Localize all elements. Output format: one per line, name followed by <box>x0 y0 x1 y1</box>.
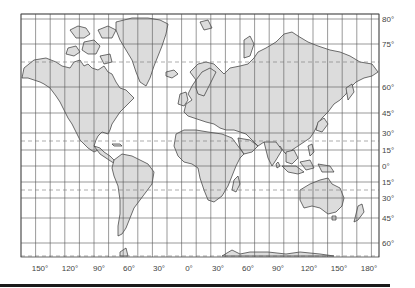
iceland <box>166 70 178 78</box>
lat-label: 60° <box>382 83 394 92</box>
lon-label: 90° <box>272 264 284 273</box>
lon-label: 180° <box>361 264 378 273</box>
madagascar <box>232 176 240 192</box>
lon-label: 150° <box>32 264 49 273</box>
lon-label: 60° <box>123 264 135 273</box>
lat-label: 15° <box>382 146 394 155</box>
lat-label: 0° <box>382 162 390 171</box>
lon-label: 30° <box>153 264 165 273</box>
landmasses <box>22 18 378 256</box>
lat-label: 30° <box>382 129 394 138</box>
lon-label: 0° <box>185 264 193 273</box>
lat-label: 60° <box>382 239 394 248</box>
lat-label: 75° <box>382 40 394 49</box>
central-america <box>94 146 116 164</box>
lat-label: 45° <box>382 109 394 118</box>
lon-label: 30° <box>212 264 224 273</box>
longitude-labels: 150° 120° 90° 60° 30° 0° 30° 60° 90° 120… <box>32 264 378 273</box>
latitude-labels: 80° 75° 60° 45° 30° 15° 0° 15° 30° 45° 6… <box>382 15 394 248</box>
indonesia <box>282 166 304 174</box>
lat-label: 80° <box>382 15 394 24</box>
lat-label: 45° <box>382 214 394 223</box>
lat-label: 15° <box>382 178 394 187</box>
australia <box>300 178 344 214</box>
lat-label: 30° <box>382 194 394 203</box>
bottom-rule <box>0 284 390 287</box>
lon-label: 90° <box>93 264 105 273</box>
new-zealand <box>354 204 364 222</box>
lon-label: 120° <box>62 264 79 273</box>
arctic-islands <box>70 26 90 38</box>
north-america <box>22 58 134 152</box>
world-map: 150° 120° 90° 60° 30° 0° 30° 60° 90° 120… <box>0 0 415 288</box>
lon-label: 150° <box>331 264 348 273</box>
antarctica <box>120 248 128 256</box>
lon-label: 60° <box>242 264 254 273</box>
lon-label: 120° <box>301 264 318 273</box>
greenland <box>116 18 168 86</box>
